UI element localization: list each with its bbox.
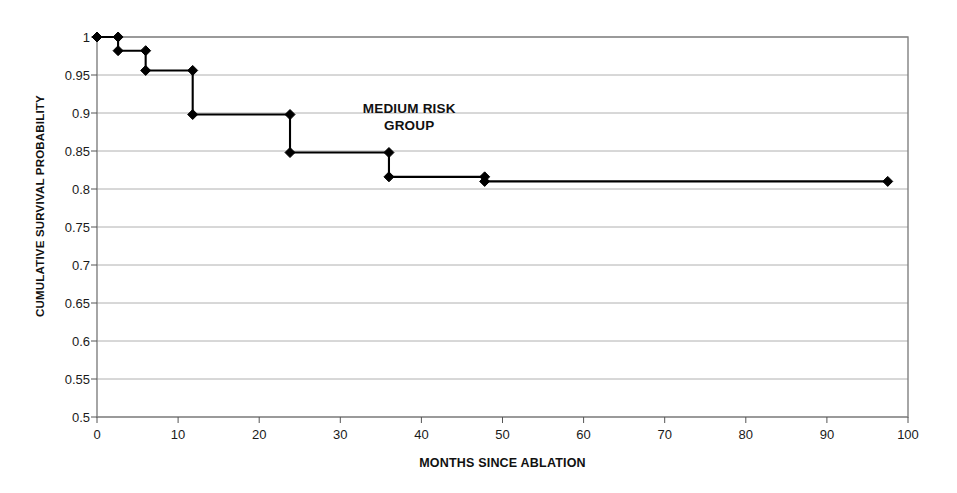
data-point-marker (113, 46, 123, 56)
x-axis-ticks (97, 417, 908, 423)
data-point-marker (883, 176, 893, 186)
y-axis-ticks (91, 37, 97, 417)
data-point-marker (285, 110, 295, 120)
data-point-marker (188, 110, 198, 120)
data-point-marker (188, 65, 198, 75)
data-point-marker (141, 65, 151, 75)
data-point-marker (384, 148, 394, 158)
data-point-marker (384, 172, 394, 182)
data-point-marker (141, 46, 151, 56)
data-point-marker (113, 32, 123, 42)
data-point-marker (285, 148, 295, 158)
x-axis-title: MONTHS SINCE ABLATION (97, 456, 908, 470)
series-annotation-medium-risk: MEDIUM RISK GROUP (319, 100, 499, 134)
data-point-marker (92, 32, 102, 42)
gridlines (97, 37, 908, 417)
survival-chart-figure: CUMULATIVE SURVIVAL PROBABILITY 0.50.550… (0, 0, 957, 493)
plot-area (0, 0, 957, 493)
